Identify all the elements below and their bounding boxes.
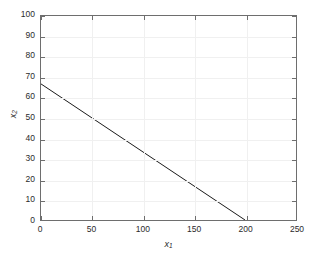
gridline-horizontal (41, 119, 296, 120)
x-axis-tick (144, 216, 145, 220)
data-series-layer (41, 16, 296, 220)
x-axis-tick (195, 16, 196, 20)
gridline-vertical (195, 16, 196, 220)
x-axis-tick (144, 16, 145, 20)
y-axis-tick (292, 201, 296, 202)
gridline-horizontal (41, 181, 296, 182)
gridline-vertical (247, 16, 248, 220)
x-axis-tick (41, 216, 42, 220)
gridline-horizontal (41, 140, 296, 141)
y-axis-tick (292, 98, 296, 99)
x-axis-tick-label: 50 (76, 225, 106, 234)
x-axis-tick (195, 216, 196, 220)
gridline-horizontal (41, 98, 296, 99)
gridline-horizontal (41, 160, 296, 161)
y-axis-tick (292, 119, 296, 120)
gridline-vertical (144, 16, 145, 220)
y-axis-tick (292, 78, 296, 79)
y-axis-tick (41, 119, 45, 120)
gridline-horizontal (41, 78, 296, 79)
y-axis-tick (41, 57, 45, 58)
y-axis-tick-label: 100 (8, 10, 35, 19)
y-axis-tick (292, 57, 296, 58)
x-axis-title-subscript: 1 (169, 242, 173, 249)
x-axis-tick (247, 16, 248, 20)
figure-canvas: x1 x2 0501001502002500102030405060708090… (0, 0, 320, 261)
y-axis-tick (41, 160, 45, 161)
x-axis-tick-label: 0 (25, 225, 55, 234)
y-axis-tick (292, 160, 296, 161)
x-axis-tick-label: 250 (282, 225, 312, 234)
gridline-vertical (92, 16, 93, 220)
y-axis-tick-label: 0 (8, 216, 35, 225)
x-axis-tick-label: 150 (179, 225, 209, 234)
y-axis-tick (41, 78, 45, 79)
y-axis-tick (41, 181, 45, 182)
y-axis-tick-label: 80 (8, 51, 35, 60)
y-axis-tick (292, 181, 296, 182)
plot-axes (40, 15, 297, 221)
y-axis-tick-label: 20 (8, 175, 35, 184)
y-axis-tick (292, 37, 296, 38)
x-axis-title: x1 (40, 239, 297, 251)
gridline-horizontal (41, 57, 296, 58)
y-axis-tick-label: 10 (8, 195, 35, 204)
x-axis-tick-label: 100 (128, 225, 158, 234)
gridline-horizontal (41, 201, 296, 202)
y-axis-tick-label: 50 (8, 113, 35, 122)
gridline-horizontal (41, 37, 296, 38)
x-axis-tick-label: 200 (231, 225, 261, 234)
y-axis-tick-label: 90 (8, 31, 35, 40)
y-axis-tick-label: 70 (8, 72, 35, 81)
y-axis-tick (292, 140, 296, 141)
y-axis-tick (41, 37, 45, 38)
y-axis-tick (41, 140, 45, 141)
y-axis-tick-label: 60 (8, 92, 35, 101)
y-axis-tick (41, 201, 45, 202)
y-axis-tick (41, 98, 45, 99)
y-axis-tick-label: 40 (8, 134, 35, 143)
x-axis-tick (92, 216, 93, 220)
y-axis-tick (41, 16, 45, 17)
y-axis-tick-label: 30 (8, 154, 35, 163)
x-axis-tick (247, 216, 248, 220)
y-axis-tick (292, 16, 296, 17)
x-axis-tick (92, 16, 93, 20)
